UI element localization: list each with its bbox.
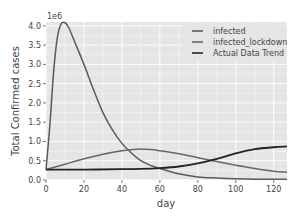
y-tick-label: 1.0	[28, 137, 41, 146]
y-offset-label: 1e6	[47, 12, 62, 21]
legend-label: Actual Data Trend	[213, 49, 284, 58]
legend-label: infected_lockdown	[213, 38, 287, 47]
y-axis-label: Total Confirmed cases	[10, 46, 21, 157]
legend-label: infected	[213, 27, 246, 36]
x-axis-ticks: 020406080100120	[43, 180, 281, 194]
y-tick-label: 0.5	[28, 157, 41, 166]
y-tick-label: 2.0	[28, 99, 41, 108]
y-axis-ticks: 0.00.51.01.52.02.53.03.54.0	[28, 22, 46, 185]
chart-figure: 020406080100120 0.00.51.01.52.02.53.03.5…	[0, 0, 302, 218]
x-axis-label: day	[157, 198, 175, 209]
y-tick-label: 0.0	[28, 176, 41, 185]
y-tick-label: 2.5	[28, 80, 41, 89]
legend: infected infected_lockdown Actual Data T…	[183, 23, 287, 60]
x-tick-label: 80	[193, 185, 203, 194]
x-tick-label: 120	[266, 185, 281, 194]
line-chart: 020406080100120 0.00.51.01.52.02.53.03.5…	[0, 0, 302, 218]
y-tick-label: 4.0	[28, 22, 41, 31]
y-tick-label: 1.5	[28, 118, 41, 127]
x-tick-label: 0	[43, 185, 48, 194]
y-tick-label: 3.0	[28, 60, 41, 69]
x-tick-label: 20	[79, 185, 89, 194]
x-tick-label: 60	[155, 185, 165, 194]
x-tick-label: 40	[117, 185, 127, 194]
x-tick-label: 100	[228, 185, 243, 194]
y-tick-label: 3.5	[28, 41, 41, 50]
